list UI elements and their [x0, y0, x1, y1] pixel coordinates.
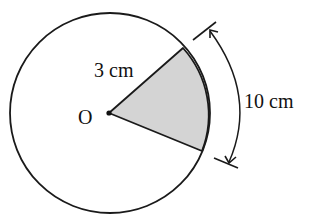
center-label: O	[78, 106, 92, 128]
sector-diagram: 3 cm O 10 cm	[0, 0, 313, 214]
radius-label: 3 cm	[94, 59, 134, 81]
center-point	[106, 110, 111, 115]
dimension-tick-bottom	[214, 158, 238, 168]
arc-length-label: 10 cm	[244, 90, 294, 112]
dimension-arc	[210, 31, 240, 162]
